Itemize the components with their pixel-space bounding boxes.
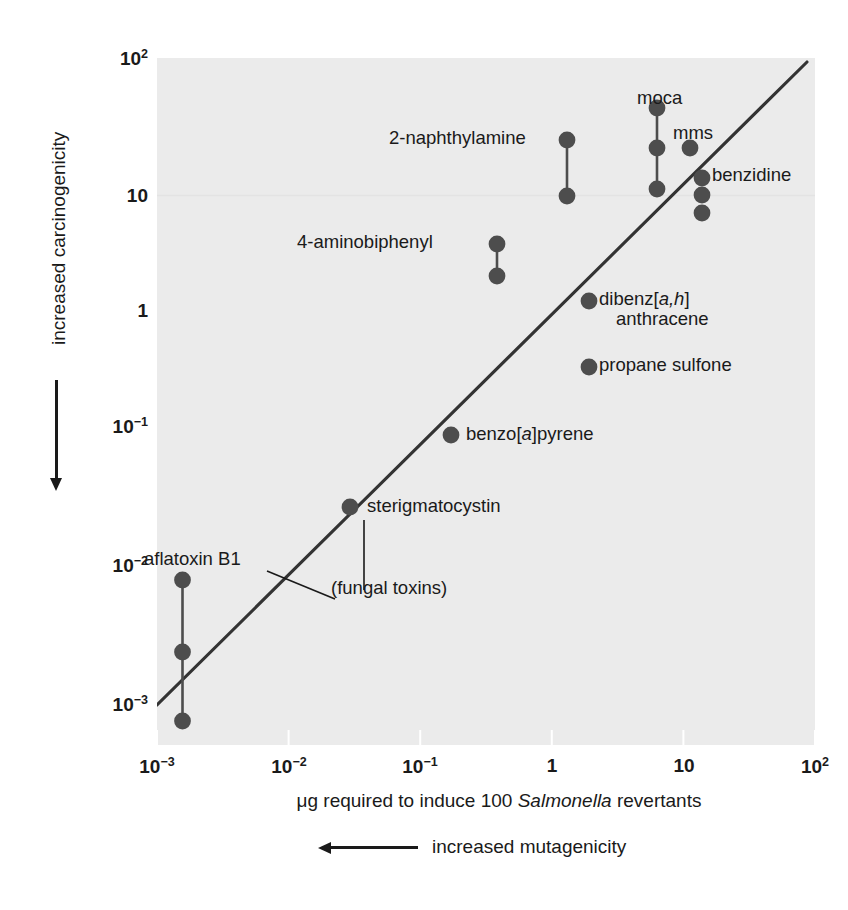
- x-axis-title-pre: μg required to induce 100: [297, 790, 518, 811]
- point-2-naphthylamine: [559, 132, 576, 149]
- label-dibenz-ah-anthracene: dibenz[a,h] anthracene: [599, 289, 779, 329]
- point-sterigmatocystin: [342, 499, 359, 516]
- dibenz-part2: ]: [684, 288, 689, 309]
- y-direction-arrow: [55, 380, 58, 490]
- point-4-aminobiphenyl: [489, 268, 506, 285]
- label-4-aminobiphenyl: 4-aminobiphenyl: [297, 232, 433, 252]
- x-axis-title-post: revertants: [612, 790, 702, 811]
- point-moca: [649, 181, 666, 198]
- x-axis-ticks: [157, 730, 815, 745]
- x-axis-title-italic: Salmonella: [518, 790, 612, 811]
- label-2-naphthylamine: 2-naphthylamine: [389, 128, 526, 148]
- y-tick-1e-2: 10−2: [88, 554, 148, 577]
- x-tick-1e-3: 10−3: [123, 755, 191, 778]
- y-tick-1e2: 102: [90, 47, 148, 70]
- series-connectors: [183, 108, 658, 721]
- label-moca: moca: [637, 88, 682, 108]
- label-fungal-toxins: (fungal toxins): [331, 578, 447, 598]
- benzo-part1: benzo[: [466, 423, 522, 444]
- y-direction-label: increased carcinogenicity: [48, 132, 70, 345]
- x-direction-arrow: [318, 846, 418, 849]
- label-aflatoxin-b1: aflatoxin B1: [144, 549, 241, 569]
- x-tick-1e2: 102: [781, 755, 848, 778]
- y-tick-1: 1: [90, 300, 148, 322]
- point-benzo-a-pyrene: [443, 427, 460, 444]
- dibenz-line2: anthracene: [599, 309, 709, 329]
- data-points: [174, 100, 710, 730]
- point-aflatoxin-b1: [174, 572, 191, 589]
- benzo-italic: a: [522, 423, 532, 444]
- point-4-aminobiphenyl: [489, 236, 506, 253]
- label-benzidine: benzidine: [712, 165, 791, 185]
- dibenz-italic: a,h: [659, 288, 685, 309]
- label-mms: mms: [673, 123, 713, 143]
- plot-canvas: [157, 58, 815, 745]
- x-tick-1e-2: 10−2: [255, 755, 323, 778]
- point-2-naphthylamine: [559, 188, 576, 205]
- point-benzidine: [694, 205, 711, 222]
- point-aflatoxin-b1: [174, 713, 191, 730]
- label-benzo-a-pyrene: benzo[a]pyrene: [466, 424, 594, 444]
- x-tick-1: 1: [518, 755, 586, 777]
- y-tick-1e-1: 10−1: [88, 415, 148, 438]
- y-tick-1e-3: 10−3: [88, 693, 148, 716]
- point-benzidine: [694, 170, 711, 187]
- point-aflatoxin-b1: [174, 644, 191, 661]
- dibenz-part1: dibenz[: [599, 288, 659, 309]
- carcinogenicity-mutagenicity-scatter-figure: 102 10 1 10−1 10−2 10−3 10−3 10−2 10−1 1…: [0, 0, 848, 910]
- x-axis-title: μg required to induce 100 Salmonella rev…: [0, 790, 848, 812]
- point-moca: [649, 140, 666, 157]
- benzo-part2: ]pyrene: [532, 423, 594, 444]
- trendline: [157, 62, 807, 705]
- plot-area: [157, 58, 815, 745]
- x-tick-10: 10: [650, 755, 718, 777]
- x-direction-label: increased mutagenicity: [432, 836, 626, 858]
- label-sterigmatocystin: sterigmatocystin: [367, 496, 501, 516]
- label-propane-sulfone: propane sulfone: [599, 355, 732, 375]
- point-benzidine: [694, 187, 711, 204]
- point-propane-sulfone: [581, 359, 598, 376]
- x-tick-1e-1: 10−1: [386, 755, 454, 778]
- point-dibenz-ah-anthracene: [581, 293, 598, 310]
- y-tick-10: 10: [90, 185, 148, 207]
